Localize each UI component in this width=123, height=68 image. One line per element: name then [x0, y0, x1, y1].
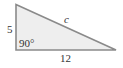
hypotenuse-label: c — [64, 13, 69, 25]
vertical-leg-label: 5 — [7, 23, 13, 35]
horizontal-leg-label: 12 — [60, 52, 71, 64]
right-angle-label: 90° — [19, 37, 34, 49]
right-triangle-diagram: 5 c 90° 12 — [0, 0, 123, 68]
